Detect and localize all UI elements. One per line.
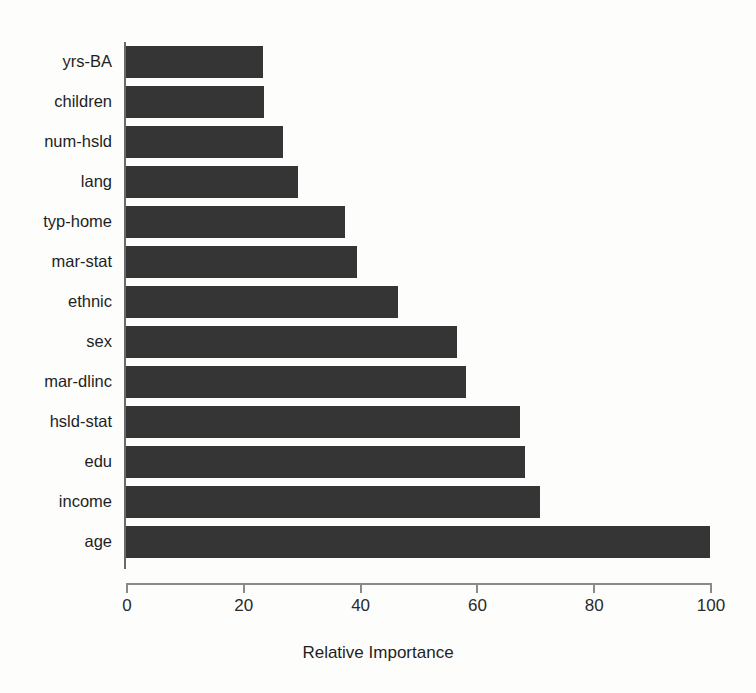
category-label-typ-home: typ-home <box>43 212 112 231</box>
category-label-edu: edu <box>84 452 112 471</box>
x-tick-label: 0 <box>122 596 131 616</box>
bar-row <box>126 42 710 82</box>
x-tick <box>360 583 362 593</box>
category-label-num-hsld: num-hsld <box>44 132 112 151</box>
bar-typ-home <box>126 206 345 238</box>
bar-yrs-BA <box>126 46 263 78</box>
x-tick-label: 60 <box>468 596 487 616</box>
bar-row <box>126 522 710 562</box>
x-axis-title: Relative Importance <box>0 643 756 663</box>
bar-hsld-stat <box>126 406 520 438</box>
x-tick-label: 100 <box>697 596 725 616</box>
bar-income <box>126 486 540 518</box>
bar-row <box>126 162 710 202</box>
bar-row <box>126 122 710 162</box>
bar-mar-dlinc <box>126 366 466 398</box>
category-label-mar-stat: mar-stat <box>51 252 112 271</box>
bar-sex <box>126 326 457 358</box>
bar-num-hsld <box>126 126 283 158</box>
category-label-income: income <box>59 492 112 511</box>
category-label-yrs-BA: yrs-BA <box>63 52 113 71</box>
bar-row <box>126 282 710 322</box>
category-label-sex: sex <box>86 332 112 351</box>
x-tick-label: 20 <box>234 596 253 616</box>
x-tick <box>593 583 595 593</box>
bar-row <box>126 202 710 242</box>
category-axis-labels: yrs-BAchildrennum-hsldlangtyp-homemar-st… <box>0 42 112 568</box>
category-label-lang: lang <box>81 172 112 191</box>
bar-mar-stat <box>126 246 357 278</box>
bar-row <box>126 442 710 482</box>
x-tick <box>710 583 712 593</box>
x-tick-label: 40 <box>351 596 370 616</box>
bar-row <box>126 362 710 402</box>
bar-lang <box>126 166 298 198</box>
category-label-hsld-stat: hsld-stat <box>50 412 112 431</box>
bar-age <box>126 526 710 558</box>
x-tick <box>243 583 245 593</box>
x-tick-label: 80 <box>585 596 604 616</box>
category-label-ethnic: ethnic <box>68 292 112 311</box>
bar-row <box>126 322 710 362</box>
category-label-age: age <box>84 532 112 551</box>
x-axis-line <box>126 583 711 585</box>
bar-row <box>126 82 710 122</box>
bar-ethnic <box>126 286 398 318</box>
bar-row <box>126 482 710 522</box>
x-tick <box>476 583 478 593</box>
bar-edu <box>126 446 525 478</box>
bar-row <box>126 242 710 282</box>
category-label-children: children <box>54 92 112 111</box>
bar-children <box>126 86 264 118</box>
bar-row <box>126 402 710 442</box>
category-label-mar-dlinc: mar-dlinc <box>44 372 112 391</box>
relative-importance-bar-chart: yrs-BAchildrennum-hsldlangtyp-homemar-st… <box>0 0 756 693</box>
plot-area <box>126 42 710 568</box>
x-tick <box>126 583 128 593</box>
